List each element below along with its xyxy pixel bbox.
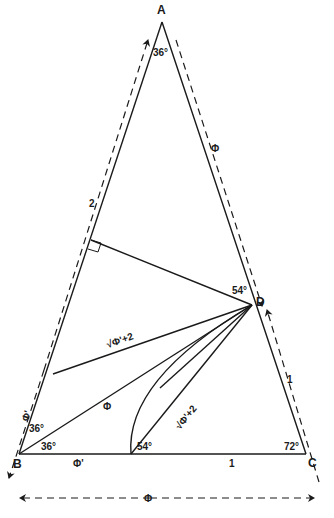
label-BC-dimension: Φ [144,493,152,504]
perpendicular-to-AB [91,240,252,305]
label-DC: 1 [287,374,293,385]
label-lower-chord: √Φ'+2 [173,403,199,432]
main-triangle [19,22,306,454]
angle-B-lower: 36° [41,441,56,452]
angle-base-point: 54° [137,441,152,452]
vertex-label-B: B [13,457,22,471]
upper-chord [53,305,252,374]
angle-A: 36° [153,47,168,58]
lower-chord [131,305,252,454]
vertex-label-D: D [256,295,265,309]
angle-B-upper: 36° [29,423,44,434]
label-AC: Φ [211,143,219,154]
dim-arrow-AB-upper [44,40,148,370]
side-AB [19,22,162,454]
vertex-label-C: C [308,456,317,470]
angle-D: 54° [232,285,247,296]
label-BC-right: 1 [229,458,235,469]
label-AB-upper: 2 [89,198,95,209]
label-AB-lower: Φ' [19,409,33,422]
angle-C: 72° [284,441,299,452]
extra-line [160,305,252,388]
label-BC-left: Φ' [73,458,84,469]
golden-triangle-diagram: A B C D 36° 36° 36° 72° 54° 54° 2 Φ' Φ 1… [0,0,334,518]
vertex-label-A: A [157,3,166,17]
label-BD: Φ [103,401,111,412]
dim-arrow-AD [176,40,262,306]
